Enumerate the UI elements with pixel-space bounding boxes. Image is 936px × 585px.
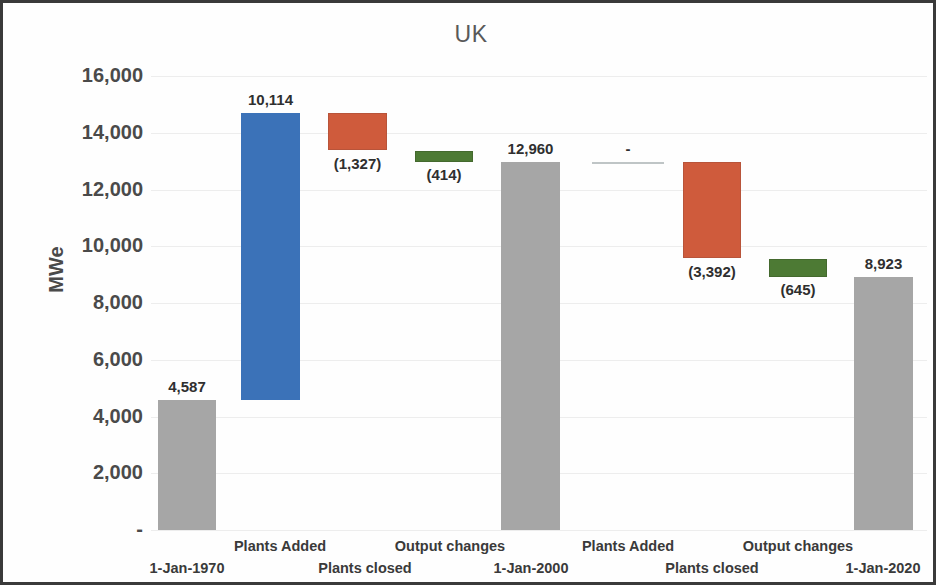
bar-decrease[interactable] <box>415 151 473 163</box>
bar-decrease[interactable] <box>769 259 827 277</box>
y-axis-tick-label: 8,000 <box>31 292 143 312</box>
bar-total[interactable] <box>158 400 216 530</box>
bar-data-label: - <box>562 140 694 157</box>
x-axis-tick-label: Output changes <box>718 538 878 554</box>
bar-data-label: (414) <box>385 166 503 183</box>
chart-frame: UK MWe 16,00014,00012,00010,0008,0006,00… <box>0 0 936 585</box>
y-axis-tick-label: 14,000 <box>31 122 143 142</box>
waterfall-chart-plot: UK MWe 16,00014,00012,00010,0008,0006,00… <box>3 3 936 585</box>
bar-zero[interactable] <box>592 162 664 164</box>
y-axis-tick-label: 10,000 <box>31 235 143 255</box>
bar-data-label: 8,923 <box>824 255 936 272</box>
x-axis-tick-label: Plants Added <box>548 538 708 554</box>
bar-decrease[interactable] <box>683 162 741 258</box>
chart-title: UK <box>3 21 936 48</box>
x-axis-tick-label: Plants Added <box>200 538 360 554</box>
y-axis-tick-label: - <box>31 519 143 539</box>
x-axis-tick-label: Plants closed <box>285 560 445 576</box>
x-axis-tick-label: 1-Jan-1970 <box>107 560 267 576</box>
y-axis-tick-label: 12,000 <box>31 179 143 199</box>
y-axis-tick-label: 4,000 <box>31 406 143 426</box>
x-axis-tick-label: Output changes <box>370 538 530 554</box>
bar-data-label: (645) <box>739 281 857 298</box>
bar-data-label: 10,114 <box>211 91 330 108</box>
bar-data-label: (3,392) <box>653 263 771 280</box>
bar-data-label: 4,587 <box>128 378 246 395</box>
bar-decrease[interactable] <box>328 113 387 151</box>
y-axis-tick-label: 16,000 <box>31 65 143 85</box>
x-axis-tick-label: 1-Jan-2000 <box>451 560 611 576</box>
bar-total[interactable] <box>854 277 913 530</box>
gridline <box>151 530 927 531</box>
bar-increase[interactable] <box>241 113 300 400</box>
bar-total[interactable] <box>501 162 560 530</box>
x-axis-tick-label: Plants closed <box>632 560 792 576</box>
y-axis-tick-label: 6,000 <box>31 349 143 369</box>
gridline <box>151 76 927 77</box>
x-axis-tick-label: 1-Jan-2020 <box>803 560 936 576</box>
y-axis-tick-label: 2,000 <box>31 462 143 482</box>
